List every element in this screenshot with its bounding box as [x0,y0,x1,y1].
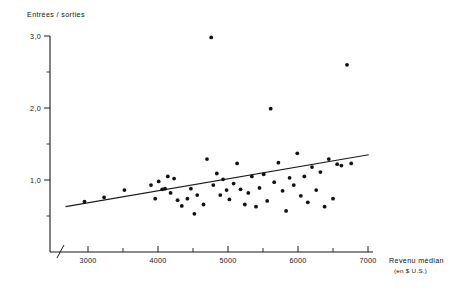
data-point [169,191,173,195]
scatter-plot-figure: 3,0 2,0 1,0 Entrées / sorties 3000 4000 … [0,0,472,289]
y-tick-label-3.0: 3,0 [30,32,41,41]
data-point [166,175,170,179]
data-point [157,180,161,184]
data-point [243,203,247,207]
data-point [295,151,299,155]
data-point [172,177,176,181]
data-point [306,200,310,204]
data-point [258,186,262,190]
data-point [202,203,206,207]
y-tick-label-2.0: 2,0 [30,104,41,113]
data-point [149,183,153,187]
data-point [239,187,243,191]
data-point [189,187,193,191]
data-point [246,191,250,195]
data-point [292,183,296,187]
data-point [205,157,209,161]
data-point [269,107,273,111]
x-axis-label: Revenu médian [389,256,444,265]
data-point [225,188,229,192]
data-point [180,204,184,208]
data-point [331,197,335,201]
y-axis-label: Entrées / sorties [27,10,85,19]
regression-line-group [66,155,369,207]
regression-line [66,155,369,207]
data-point [215,172,219,176]
data-point [323,205,327,209]
data-point [262,172,266,176]
data-point [153,197,157,201]
x-tick-label-4000: 4000 [149,256,166,265]
x-tick-label-5000: 5000 [219,256,236,265]
data-point [345,63,349,67]
data-point [310,165,314,169]
y-tick-label-1.0: 1,0 [30,176,41,185]
data-point [176,198,180,202]
data-point [218,193,222,197]
data-point [228,198,232,202]
data-point [277,161,281,165]
data-point [195,193,199,197]
data-point [221,177,225,181]
data-point [123,188,127,192]
data-point [265,199,269,203]
data-point [319,170,323,174]
chart-canvas: 3,0 2,0 1,0 Entrées / sorties 3000 4000 … [0,0,472,289]
data-point [299,194,303,198]
data-point [340,164,344,168]
data-point [102,195,106,199]
data-point [232,182,236,186]
x-tick-label-7000: 7000 [359,256,376,265]
x-axis-units-label: (en $ U.S.) [394,267,427,274]
data-point [349,162,353,166]
data-point [193,212,197,216]
data-point [284,209,288,213]
data-point [314,188,318,192]
x-tick-label-3000: 3000 [79,256,96,265]
data-point [209,36,213,40]
x-axis-group: 3000 4000 5000 6000 7000 Revenu médian (… [50,245,444,274]
x-tick-label-6000: 6000 [289,256,306,265]
data-point [302,175,306,179]
y-axis-group: 3,0 2,0 1,0 Entrées / sorties [27,10,85,252]
data-point [272,180,276,184]
data-point [327,157,331,161]
data-point [163,187,167,191]
data-points-group [83,36,354,216]
data-point [250,175,254,179]
data-point [235,162,239,166]
data-point [186,197,190,201]
data-point [288,176,292,180]
data-point [254,205,258,209]
data-point [83,200,87,204]
data-point [335,162,339,166]
data-point [281,189,285,193]
data-point [211,183,215,187]
